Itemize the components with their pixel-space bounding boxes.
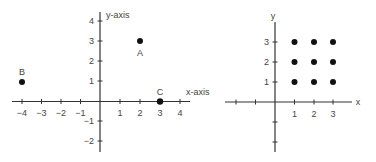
point xyxy=(311,79,317,85)
point-b-label: B xyxy=(19,67,25,77)
right-y-tick-label: 3 xyxy=(264,37,269,47)
point xyxy=(292,39,298,45)
right-x-tick-label: 3 xyxy=(330,109,335,119)
right-x-tick-label: 2 xyxy=(311,109,316,119)
point xyxy=(311,39,317,45)
left-y-axis-label: y-axis xyxy=(106,10,130,20)
right-y-tick-label: 1 xyxy=(264,77,269,87)
point-b xyxy=(19,79,25,85)
right-y-axis-label: y xyxy=(271,11,276,21)
point xyxy=(311,59,317,65)
left-x-tick-label: 1 xyxy=(117,108,122,118)
right-points xyxy=(292,39,337,85)
left-x-tick-label: 2 xyxy=(137,108,142,118)
left-x-tick-label: −4 xyxy=(17,108,27,118)
left-chart: −4 −3 −2 −1 1 2 3 4 4 3 2 1 −1 −2 y-axis… xyxy=(12,10,210,152)
left-x-tick-label: 4 xyxy=(177,108,182,118)
point-c xyxy=(157,98,163,104)
right-chart: 1 2 3 3 2 1 y x xyxy=(225,11,361,152)
point xyxy=(292,59,298,65)
left-x-tick-label: 3 xyxy=(157,108,162,118)
right-x-axis-label: x xyxy=(356,97,361,107)
point xyxy=(292,79,298,85)
left-y-tick-label: 3 xyxy=(89,36,94,46)
left-y-tick-label: 1 xyxy=(89,76,94,86)
right-x-tick-label: 1 xyxy=(292,109,297,119)
left-y-tick-label: 4 xyxy=(89,16,94,26)
point-c-label: C xyxy=(157,87,164,97)
figure: −4 −3 −2 −1 1 2 3 4 4 3 2 1 −1 −2 y-axis… xyxy=(0,0,376,162)
point xyxy=(330,39,336,45)
point xyxy=(330,79,336,85)
left-y-tick-label: −2 xyxy=(84,136,94,146)
point-a xyxy=(137,38,143,44)
left-y-tick-label: −1 xyxy=(84,116,94,126)
left-x-axis-label: x-axis xyxy=(186,87,210,97)
left-x-tick-label: −3 xyxy=(36,108,46,118)
point xyxy=(330,59,336,65)
left-y-tick-label: 2 xyxy=(89,56,94,66)
point-a-label: A xyxy=(137,48,143,58)
left-x-tick-label: −2 xyxy=(56,108,66,118)
right-y-tick-label: 2 xyxy=(264,57,269,67)
